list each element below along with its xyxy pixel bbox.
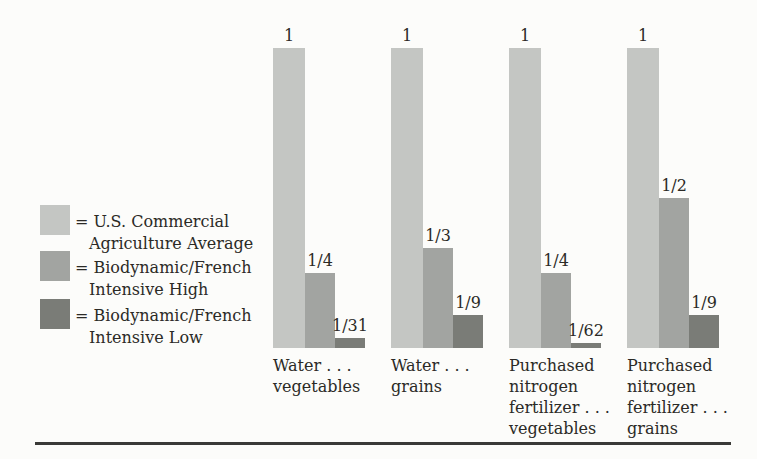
bars-row: 11/31/9 <box>391 26 483 348</box>
bars-row: 11/21/9 <box>627 26 719 348</box>
legend-label: = Biodynamic/FrenchIntensive Low <box>75 305 252 349</box>
bar-value-label: 1/31 <box>332 316 368 335</box>
bar-value-label: 1/9 <box>691 293 717 312</box>
bar <box>423 248 453 348</box>
bar-value-label: 1/9 <box>455 293 481 312</box>
bar-column: 1/4 <box>305 251 335 348</box>
bars-row: 11/41/31 <box>273 26 365 348</box>
bottom-rule <box>35 442 731 445</box>
bar-column: 1/31 <box>335 316 365 348</box>
bar-column: 1 <box>273 26 305 348</box>
bar <box>571 343 601 348</box>
bar-value-label: 1 <box>520 26 530 45</box>
bar-column: 1/9 <box>689 293 719 348</box>
legend-swatch <box>40 251 70 281</box>
bar-groups: 11/41/31Water . . .vegetables11/31/9Wate… <box>273 26 719 439</box>
bar-column: 1 <box>391 26 423 348</box>
legend-swatch <box>40 299 70 329</box>
legend-item: = U.S. CommercialAgriculture Average <box>40 205 253 255</box>
bar-column: 1/9 <box>453 293 483 348</box>
bar <box>509 48 541 348</box>
category-label: Water . . .vegetables <box>273 355 365 397</box>
bar-column: 1 <box>627 26 659 348</box>
bar-group: 11/31/9Water . . .grains <box>391 26 483 439</box>
bar-value-label: 1 <box>402 26 412 45</box>
bar <box>335 338 365 348</box>
bar-value-label: 1/3 <box>425 226 451 245</box>
bar-value-label: 1/62 <box>568 321 604 340</box>
bar-group: 11/41/31Water . . .vegetables <box>273 26 365 439</box>
bar <box>391 48 423 348</box>
legend-swatch <box>40 205 70 235</box>
legend-item: = Biodynamic/FrenchIntensive High <box>40 251 252 301</box>
bar <box>659 198 689 348</box>
bar <box>273 48 305 348</box>
bars-row: 11/41/62 <box>509 26 601 348</box>
bar <box>689 315 719 348</box>
bar-column: 1/3 <box>423 226 453 348</box>
bar <box>541 273 571 348</box>
legend-label: = Biodynamic/FrenchIntensive High <box>75 257 252 301</box>
bar-value-label: 1/4 <box>307 251 333 270</box>
bar-value-label: 1/2 <box>661 176 687 195</box>
bar <box>453 315 483 348</box>
bar-value-label: 1/4 <box>543 251 569 270</box>
bar-group: 11/21/9Purchasednitrogenfertilizer . . .… <box>627 26 719 439</box>
legend-item: = Biodynamic/FrenchIntensive Low <box>40 299 252 349</box>
category-label: Water . . .grains <box>391 355 483 397</box>
resource-use-bar-chart: = U.S. CommercialAgriculture Average= Bi… <box>0 0 757 459</box>
bar-column: 1/4 <box>541 251 571 348</box>
bar <box>627 48 659 348</box>
bar-column: 1 <box>509 26 541 348</box>
category-label: Purchasednitrogenfertilizer . . .grains <box>627 355 719 439</box>
category-label: Purchasednitrogenfertilizer . . .vegetab… <box>509 355 601 439</box>
bar-value-label: 1 <box>284 26 294 45</box>
bar-column: 1/2 <box>659 176 689 348</box>
bar-group: 11/41/62Purchasednitrogenfertilizer . . … <box>509 26 601 439</box>
legend-label: = U.S. CommercialAgriculture Average <box>75 211 253 255</box>
bar-column: 1/62 <box>571 321 601 348</box>
bar-value-label: 1 <box>638 26 648 45</box>
bar <box>305 273 335 348</box>
